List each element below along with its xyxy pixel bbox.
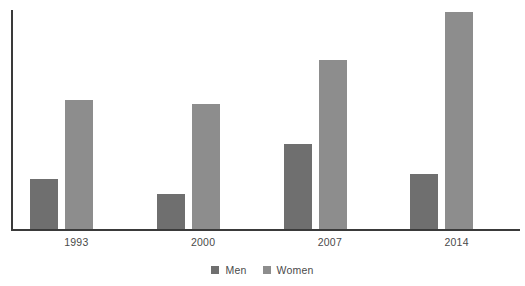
bar-group [267, 10, 394, 229]
legend-swatch-icon [263, 266, 271, 274]
bar-women-2014[interactable] [445, 12, 473, 229]
chart-legend: MenWomen [0, 264, 525, 276]
bar-group [393, 10, 520, 229]
x-tick-label-2007: 2007 [267, 236, 394, 248]
bar-women-2000[interactable] [192, 104, 220, 229]
bar-men-1993[interactable] [30, 179, 58, 229]
bar-chart: 1993200020072014 MenWomen [0, 0, 525, 286]
bar-group [140, 10, 267, 229]
legend-label: Women [277, 264, 314, 276]
x-tick-label-2000: 2000 [140, 236, 267, 248]
legend-item-men[interactable]: Men [211, 264, 246, 276]
legend-item-women[interactable]: Women [263, 264, 314, 276]
bar-women-2007[interactable] [319, 60, 347, 229]
legend-label: Men [225, 264, 246, 276]
x-tick-label-1993: 1993 [13, 236, 140, 248]
legend-swatch-icon [211, 266, 219, 274]
plot-area [13, 10, 520, 229]
x-axis-line [11, 229, 520, 231]
bar-men-2007[interactable] [284, 144, 312, 229]
x-tick-label-2014: 2014 [393, 236, 520, 248]
bar-men-2014[interactable] [410, 174, 438, 229]
bar-women-1993[interactable] [65, 100, 93, 229]
bar-men-2000[interactable] [157, 194, 185, 229]
x-axis-tick-labels: 1993200020072014 [13, 236, 520, 252]
bar-group [13, 10, 140, 229]
